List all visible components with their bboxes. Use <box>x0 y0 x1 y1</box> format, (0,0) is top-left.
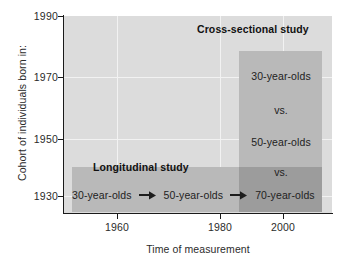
y-tick-label-1970: 1970 <box>34 71 58 83</box>
x-axis-line <box>63 213 333 214</box>
x-tick-mark-1980 <box>220 214 221 219</box>
x-tick-label-1960: 1960 <box>105 221 129 233</box>
y-tick-label-1930: 1930 <box>34 190 58 202</box>
arrow-right-icon <box>132 191 164 200</box>
y-axis-line <box>63 15 64 214</box>
figure-canvas: 1990 1970 1950 1930 1960 1980 2000 Cohor… <box>0 0 350 270</box>
y-tick-mark-1990 <box>58 16 63 17</box>
y-tick-mark-1950 <box>58 139 63 140</box>
x-tick-label-2000: 2000 <box>271 221 295 233</box>
x-tick-mark-1960 <box>117 214 118 219</box>
cross-sectional-separator-vs-1: vs. <box>274 104 288 116</box>
longitudinal-entry-70-year-olds: 70-year-olds <box>255 189 315 201</box>
arrow-right-icon <box>223 191 255 200</box>
longitudinal-entry-30-year-olds: 30-year-olds <box>72 189 132 201</box>
y-tick-label-1950: 1950 <box>34 133 58 145</box>
longitudinal-study-title: Longitudinal study <box>93 161 189 173</box>
cross-sectional-separator-vs-2: vs. <box>274 166 288 178</box>
cross-sectional-entry-30-year-olds: 30-year-olds <box>251 70 311 82</box>
longitudinal-sequence: 30-year-olds 50-year-olds 70-year-olds <box>72 189 322 201</box>
x-tick-label-1980: 1980 <box>208 221 232 233</box>
y-tick-mark-1970 <box>58 77 63 78</box>
x-axis-title: Time of measurement <box>63 243 333 255</box>
y-tick-mark-1930 <box>58 196 63 197</box>
y-tick-label-1990: 1990 <box>34 10 58 22</box>
y-axis-title: Cohort of individuals born in: <box>16 13 28 213</box>
cross-sectional-study-title: Cross-sectional study <box>197 23 309 35</box>
plot-area <box>63 16 332 213</box>
x-tick-mark-2000 <box>283 214 284 219</box>
longitudinal-entry-50-year-olds: 50-year-olds <box>164 189 224 201</box>
cross-sectional-entry-50-year-olds: 50-year-olds <box>251 136 311 148</box>
